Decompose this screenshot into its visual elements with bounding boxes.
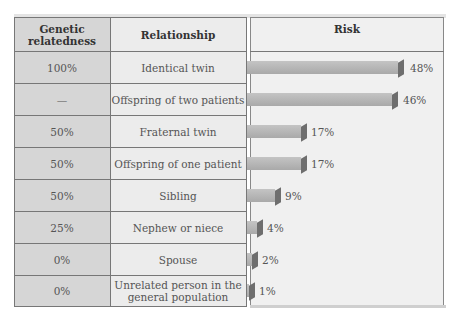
chart-floor xyxy=(250,305,446,308)
relationship-cell: Sibling xyxy=(110,180,246,211)
risk-value: 9% xyxy=(285,190,302,202)
risk-bar xyxy=(247,157,301,170)
risk-value: 2% xyxy=(262,254,279,266)
relationship-line1: Unrelated person in the xyxy=(114,279,241,291)
relationship-cell: Spouse xyxy=(110,244,246,275)
relationship-cell: Unrelated person in the general populati… xyxy=(110,276,246,306)
relatedness-cell: 100% xyxy=(14,52,110,83)
relatedness-cell: 0% xyxy=(14,244,110,275)
header-relatedness: Genetic relatedness xyxy=(14,17,110,52)
relationship-cell: Identical twin xyxy=(110,52,246,83)
relationship-cell: Fraternal twin xyxy=(110,116,246,147)
risk-value: 48% xyxy=(410,62,433,74)
table-bottom-border xyxy=(14,306,246,307)
risk-value: 1% xyxy=(259,285,276,297)
relationship-cell: Offspring of one patient xyxy=(110,148,246,179)
relatedness-cell: 25% xyxy=(14,212,110,243)
relatedness-cell: — xyxy=(14,84,110,115)
relatedness-cell: 50% xyxy=(14,148,110,179)
relationship-cell: Offspring of two patients xyxy=(110,84,246,115)
relatedness-cell: 0% xyxy=(14,276,110,306)
risk-value: 46% xyxy=(403,94,426,106)
risk-bar xyxy=(247,221,257,234)
relationship-line2: general population xyxy=(128,291,229,303)
header-relatedness-line1: Genetic xyxy=(39,23,84,35)
relatedness-cell: 50% xyxy=(14,116,110,147)
header-relatedness-line2: relatedness xyxy=(28,35,96,47)
table-top-border xyxy=(14,17,246,18)
relationship-cell: Nephew or niece xyxy=(110,212,246,243)
risk-bar xyxy=(247,189,275,202)
risk-value: 17% xyxy=(311,126,334,138)
risk-value: 17% xyxy=(311,158,334,170)
risk-bar xyxy=(247,93,392,106)
risk-value: 4% xyxy=(267,222,284,234)
header-risk: Risk xyxy=(250,17,444,52)
risk-bar xyxy=(247,125,301,138)
relatedness-cell: 50% xyxy=(14,180,110,211)
risk-bar xyxy=(247,61,398,74)
header-relationship: Relationship xyxy=(110,17,246,52)
risk-header-separator xyxy=(250,51,444,52)
